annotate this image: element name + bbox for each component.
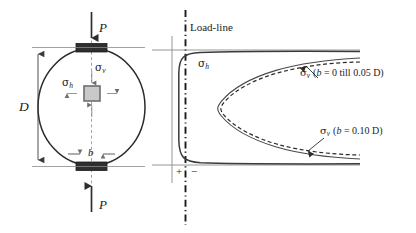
disc-sigma-v-label: σv bbox=[95, 62, 106, 74]
disc-sigma-h-label: σh bbox=[62, 77, 73, 89]
figure-container: P P D b σh σv Load-line + − σh σv(b = 0 … bbox=[0, 0, 416, 233]
sigma-subscript: h bbox=[205, 62, 209, 71]
sigma-subscript: v bbox=[307, 72, 310, 80]
sigma-subscript: v bbox=[327, 130, 330, 138]
annotation-dashed-rest: = 0.10 D) bbox=[341, 125, 382, 136]
diameter-label: D bbox=[19, 100, 29, 114]
sigma-subscript: v bbox=[102, 66, 105, 75]
platen-width-label: b bbox=[88, 147, 94, 158]
sign-negative-label: − bbox=[191, 166, 197, 177]
sigma-subscript: h bbox=[69, 81, 73, 90]
figure-graphics bbox=[0, 0, 416, 233]
annotation-solid-label: σv(b = 0 till 0.05 D) bbox=[300, 68, 384, 80]
load-line-label: Load-line bbox=[190, 22, 233, 33]
sign-positive-label: + bbox=[176, 166, 182, 177]
bottom-load-label: P bbox=[99, 198, 107, 211]
stress-element-square bbox=[84, 86, 100, 101]
sigma-symbol: σ bbox=[320, 125, 327, 136]
top-load-label: P bbox=[99, 21, 107, 34]
sigma-symbol: σ bbox=[300, 67, 307, 78]
annotation-dashed-leader bbox=[308, 138, 324, 151]
disc-assembly bbox=[32, 12, 145, 212]
plot-sigma-h-label: σh bbox=[198, 58, 209, 70]
stress-plot bbox=[152, 10, 360, 225]
annotation-dashed-label: σv(b = 0.10 D) bbox=[320, 126, 383, 138]
annotation-solid-rest: = 0 till 0.05 D) bbox=[321, 67, 383, 78]
